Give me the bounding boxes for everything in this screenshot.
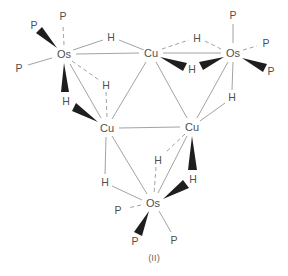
bond-ostl-h1 [73,40,103,50]
atom-h-cur-osb-back: H [154,154,162,166]
bond-h4-cul-dashed [106,92,107,119]
atom-os-bottom: Os [146,197,161,209]
bond-h6-osb [112,186,142,200]
atom-p-ostl-left: P [15,62,22,74]
atom-os-top-right: Os [226,47,241,59]
atom-p-osb-back: P [114,204,121,216]
atom-cu-left: Cu [100,122,114,134]
bond-cur-h7-dashed [165,134,185,153]
atom-p-osb-front: P [131,235,138,247]
bond-ostr-cur [197,62,228,118]
atom-p-ostr-axial: P [229,9,236,21]
bond-cul-h6 [105,137,106,174]
wedge-cur-h8 [188,136,197,170]
bond-osb-p9 [159,211,171,232]
atom-h-cul-osb: H [101,176,109,188]
bond-ostr-p5-dashed [243,46,257,50]
wedge-osb-p8 [134,211,149,236]
atom-h-cut-ostr-front: H [188,63,196,75]
atom-p-ostr-back: P [262,37,269,49]
bond-cut-h2-dashed [162,40,189,49]
atom-h-ostl-cut: H [107,31,115,43]
atom-h-ostl-cul-front: H [62,95,70,107]
atom-os-top-left: Os [57,48,72,60]
bond-h2-ostr-dashed [205,41,223,50]
bond-cul-osb [112,136,147,194]
bond-ostl-p1-dashed [63,25,64,45]
bond-h1-cut [119,40,144,50]
atom-h-ostl-cul-back: H [102,79,110,91]
atom-h-cut-ostr-back: H [193,32,201,44]
wedge-cut-h3 [160,57,187,71]
atom-p-ostl-axial: P [59,10,66,22]
bond-ostl-p3 [28,58,52,65]
wedge-ostl-h5 [61,63,69,92]
bond-ostl-cut [76,53,139,54]
bond-osb-p7-dashed [128,205,141,208]
bond-cut-cul [112,62,146,119]
atom-cu-top: Cu [144,47,158,59]
bond-cul-cur [119,127,180,128]
wedge-osb-h8 [163,180,189,199]
atom-p-ostr-front: P [267,65,274,77]
cluster-structure-diagram: Os Cu Os Cu Cu Os H H H H H H H H H P P … [0,0,288,276]
wedge-ostr-h3 [199,57,224,70]
figure-caption: (II) [148,252,160,263]
bond-ostr-h9 [232,62,233,90]
atom-h-cur-osb-front: H [189,173,197,185]
bond-ostl-h4-dashed [72,61,99,80]
wedge-ostl-p2 [36,27,57,48]
atom-p-ostl-front: P [30,19,37,31]
atom-h-ostr-cur: H [228,91,236,103]
wedge-ostr-p6 [242,58,267,72]
bond-h7-osb-dashed [154,167,156,194]
atom-cu-right: Cu [185,121,199,133]
atom-p-osb-right: P [170,234,177,246]
structure-canvas: Os Cu Os Cu Cu Os H H H H H H H H H P P … [0,0,288,276]
